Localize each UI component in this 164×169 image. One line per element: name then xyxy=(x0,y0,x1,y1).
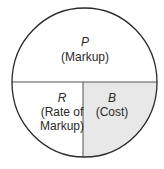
rate-label-line2: Markup) xyxy=(40,119,84,133)
markup-circle-diagram xyxy=(0,0,164,169)
rate-label-line1: (Rate of xyxy=(41,105,84,119)
cost-label: (Cost) xyxy=(96,105,129,119)
cost-region-fill xyxy=(83,82,157,157)
markup-variable: P xyxy=(81,35,89,49)
cost-variable: B xyxy=(108,91,116,105)
markup-label: (Markup) xyxy=(61,50,109,64)
rate-variable: R xyxy=(58,91,67,105)
